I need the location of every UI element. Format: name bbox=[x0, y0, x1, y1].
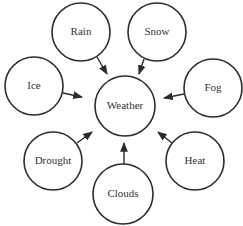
node-clouds: Clouds bbox=[93, 164, 153, 224]
node-heat: Heat bbox=[166, 132, 224, 190]
node-snow: Snow bbox=[128, 3, 186, 61]
node-label: Rain bbox=[71, 25, 92, 37]
node-label: Ice bbox=[27, 79, 41, 91]
arrow-ice-to-weather bbox=[63, 93, 82, 97]
arrow-rain-to-weather bbox=[97, 57, 107, 74]
arrow-line bbox=[164, 94, 184, 98]
node-label: Heat bbox=[185, 154, 206, 166]
arrow-line bbox=[77, 132, 92, 143]
arrow-line bbox=[139, 59, 144, 74]
node-label: Fog bbox=[204, 81, 222, 93]
nodes-group: WeatherRainSnowIceFogDroughtHeatClouds bbox=[5, 3, 242, 224]
arrow-fog-to-weather bbox=[164, 94, 184, 98]
node-rain: Rain bbox=[52, 3, 110, 61]
node-weather: Weather bbox=[95, 76, 155, 136]
arrow-snow-to-weather bbox=[139, 59, 144, 74]
arrow-drought-to-weather bbox=[77, 132, 92, 143]
node-label: Snow bbox=[144, 25, 169, 37]
arrow-heat-to-weather bbox=[158, 132, 172, 143]
arrow-line bbox=[97, 57, 107, 74]
node-drought: Drought bbox=[24, 132, 82, 190]
node-label: Drought bbox=[35, 154, 72, 166]
node-ice: Ice bbox=[5, 57, 63, 115]
node-fog: Fog bbox=[184, 59, 242, 117]
weather-concept-diagram: WeatherRainSnowIceFogDroughtHeatClouds bbox=[0, 0, 243, 226]
node-label: Clouds bbox=[107, 187, 138, 199]
arrow-line bbox=[63, 93, 82, 97]
arrow-line bbox=[158, 132, 172, 143]
node-label: Weather bbox=[107, 99, 144, 111]
